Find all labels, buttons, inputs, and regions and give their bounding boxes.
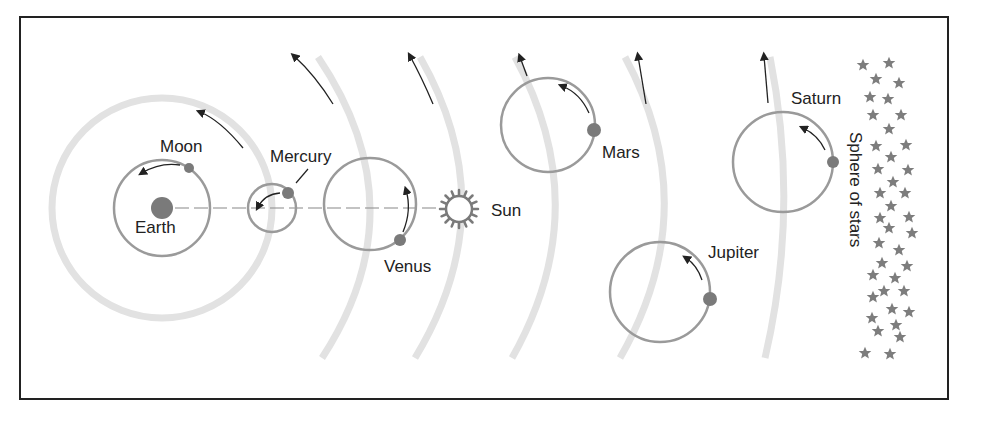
label-saturn: Saturn	[791, 89, 841, 108]
label-jupiter: Jupiter	[708, 243, 759, 262]
venus-dot	[394, 234, 406, 246]
label-sun: Sun	[491, 201, 521, 220]
mars-dot	[587, 123, 601, 137]
moon-dot	[184, 163, 194, 173]
earth-dot	[151, 197, 173, 219]
label-earth: Earth	[135, 218, 176, 237]
saturn-dot	[827, 156, 839, 168]
mercury-dot	[282, 187, 294, 199]
label-mars: Mars	[602, 143, 640, 162]
label-venus: Venus	[384, 257, 431, 276]
label-mercury: Mercury	[270, 147, 332, 166]
label-moon: Moon	[160, 137, 203, 156]
jupiter-dot	[703, 292, 717, 306]
geocentric-diagram: Moon Earth Mercury Venus Sun Mars Jupite…	[0, 0, 988, 421]
label-sphere-of-stars: Sphere of stars	[846, 132, 865, 247]
sun-icon	[440, 190, 478, 228]
